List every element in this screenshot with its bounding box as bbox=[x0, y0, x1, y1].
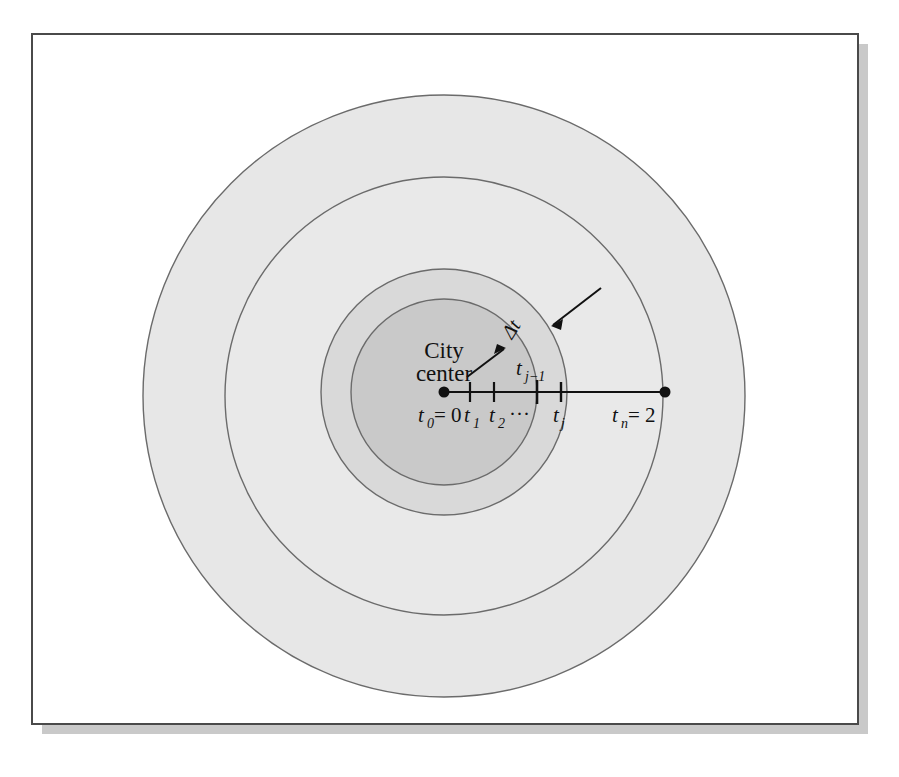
ring-diagram-svg: City center t 0 = 0 t 1 t 2 ··· t bbox=[0, 0, 899, 777]
city-center-dot bbox=[439, 387, 450, 398]
label-tjm1-subscript: j−1 bbox=[523, 369, 545, 384]
label-t2-subscript: 2 bbox=[498, 416, 505, 431]
label-t0-subscript: 0 bbox=[427, 416, 434, 431]
tn-endpoint-dot bbox=[660, 387, 671, 398]
label-tn-subscript: n bbox=[621, 416, 628, 431]
label-t0-equals: = 0 bbox=[434, 403, 462, 427]
label-ellipsis: ··· bbox=[509, 402, 530, 426]
label-t1-subscript: 1 bbox=[473, 416, 480, 431]
city-center-label-line2: center bbox=[416, 361, 473, 386]
city-center-label-line1: City bbox=[424, 338, 464, 363]
figure-container: City center t 0 = 0 t 1 t 2 ··· t bbox=[0, 0, 899, 777]
label-tn-equals: = 2 bbox=[628, 403, 656, 427]
